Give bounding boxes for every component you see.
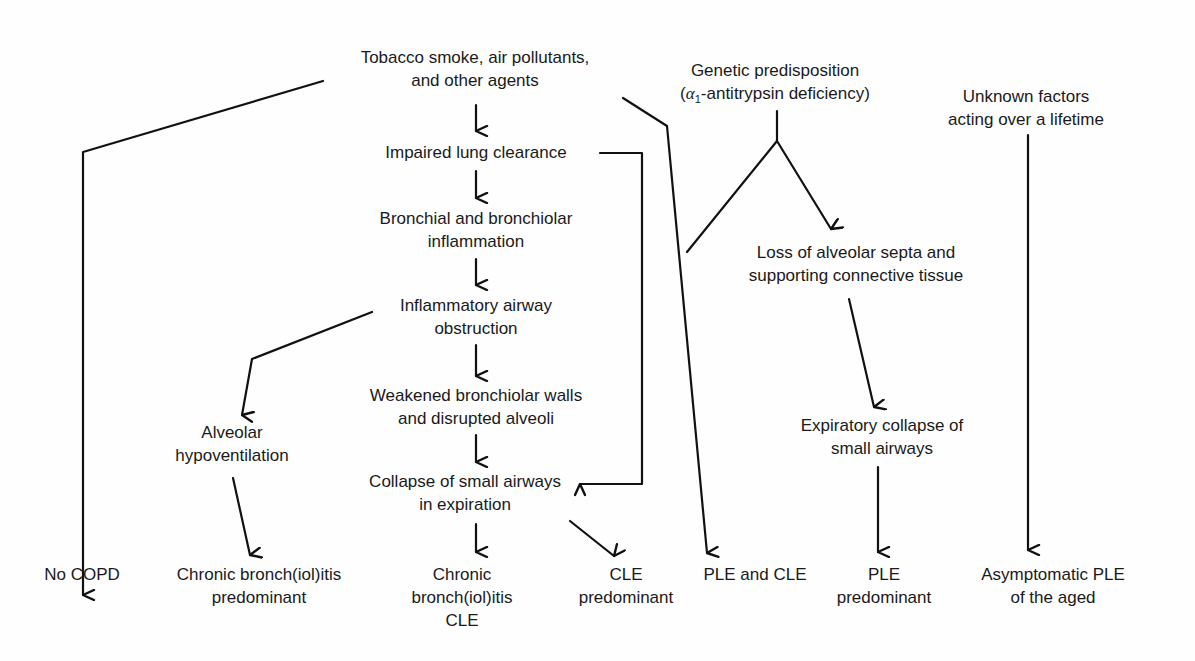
- outcome-asymptomatic-ple: Asymptomatic PLE of the aged: [981, 563, 1125, 609]
- node-loss-alveolar-septa: Loss of alveolar septa and supporting co…: [749, 241, 964, 287]
- outcome-cle-predominant: CLE predominant: [579, 563, 674, 609]
- node-alveolar-hypoventilation: Alveolar hypoventilation: [175, 421, 288, 467]
- outcome-chronic-bronch-predominant: Chronic bronch(iol)itis predominant: [177, 563, 341, 609]
- outcome-ple-predominant: PLE predominant: [837, 563, 932, 609]
- arrow-genetic-to-loss-septa: [777, 141, 831, 229]
- arrow-inflammatory-to-alveolar: [242, 312, 372, 415]
- node-genetic: Genetic predisposition (α1-antitrypsin d…: [680, 59, 870, 111]
- node-impaired-clearance: Impaired lung clearance: [385, 141, 566, 164]
- node-collapse-small-airways: Collapse of small airways in expiration: [369, 470, 561, 516]
- outcome-chronic-bronch-cle: Chronic bronch(iol)itis CLE: [411, 563, 512, 632]
- arrow-genetic-to-ple-and-cle: [687, 141, 777, 252]
- arrow-alveolar-to-chronic: [233, 478, 250, 555]
- arrow-collapse-to-cle: [570, 521, 614, 556]
- arrow-impaired-to-collapse: [580, 153, 642, 484]
- node-tobacco: Tobacco smoke, air pollutants, and other…: [361, 46, 590, 92]
- arrow-tobacco-to-no-copd: [83, 81, 323, 595]
- node-unknown: Unknown factors acting over a lifetime: [948, 85, 1104, 131]
- outcome-ple-and-cle: PLE and CLE: [703, 563, 806, 586]
- node-bronchial-inflammation: Bronchial and bronchiolar inflammation: [380, 207, 573, 253]
- outcome-no-copd: No COPD: [44, 563, 120, 586]
- node-expiratory-collapse: Expiratory collapse of small airways: [801, 414, 964, 460]
- copd-pathogenesis-diagram: Tobacco smoke, air pollutants, and other…: [0, 0, 1195, 661]
- arrow-loss-to-expiratory: [849, 299, 874, 407]
- node-weakened-walls: Weakened bronchiolar walls and disrupted…: [370, 384, 582, 430]
- node-inflammatory-obstruction: Inflammatory airway obstruction: [400, 294, 552, 340]
